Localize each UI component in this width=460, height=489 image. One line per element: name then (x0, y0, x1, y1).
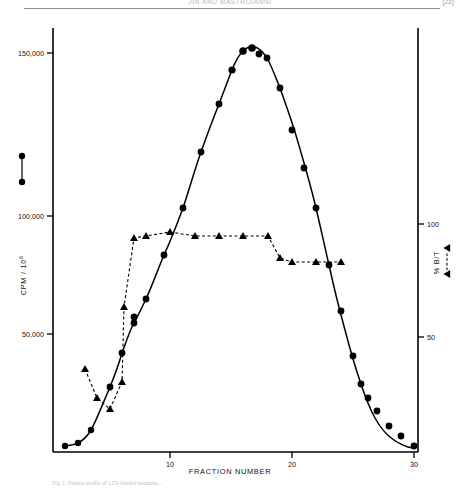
figure-panel: 150,000 100,000 50,000 100 50 10 20 30 (0, 12, 460, 489)
page-number: [22] (442, 0, 454, 5)
series-pct-bt (81, 228, 345, 412)
yaxis-left-title: CPM / 106 (18, 215, 28, 335)
series-pct-bt-markers (81, 228, 345, 412)
svg-text:50: 50 (427, 333, 435, 342)
xaxis-title: FRACTION NUMBER (0, 467, 460, 476)
yaxis-right-ticks (418, 224, 424, 337)
series-cpm (62, 44, 418, 449)
svg-text:150,000: 150,000 (18, 49, 44, 58)
xaxis-ticks (170, 452, 414, 458)
running-head: JIN AND MASTROIANNI (0, 0, 460, 5)
legend-right-glyph (443, 244, 450, 278)
header-rule (24, 8, 440, 9)
yaxis-left-exponent: 6 (18, 255, 24, 259)
yaxis-left-ticks (47, 53, 53, 334)
yaxis-right-title: % B/T (432, 208, 441, 318)
figure-caption: Fig. 1. Elution profile of 125I-labeled … (52, 480, 442, 489)
yaxis-left-title-text: CPM / 10 (19, 259, 28, 295)
legend-left-glyph (19, 153, 25, 185)
series-cpm-markers (62, 44, 418, 449)
elution-profile-chart: 150,000 100,000 50,000 100 50 10 20 30 (0, 12, 460, 489)
page-header: JIN AND MASTROIANNI [22] (0, 0, 460, 12)
